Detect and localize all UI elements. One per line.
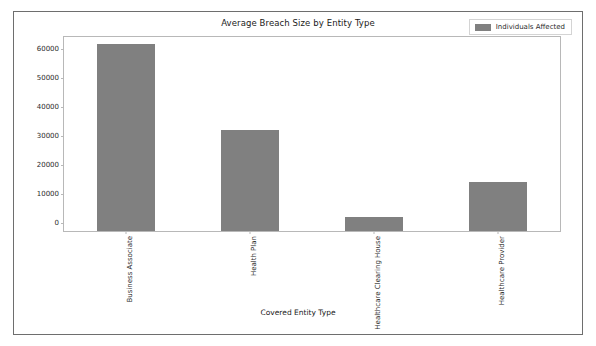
- legend-label-individuals-affected: Individuals Affected: [496, 23, 565, 31]
- legend-swatch-individuals-affected: [475, 24, 491, 31]
- y-axis-tick-label: 20000: [37, 161, 64, 169]
- y-axis-tick-label: 10000: [37, 190, 64, 198]
- plot-area: 0100002000030000400005000060000 Business…: [63, 36, 561, 232]
- x-axis-title: Covered Entity Type: [14, 308, 582, 317]
- chart-screenshot: Average Breach Size by Entity Type Indiv…: [0, 0, 596, 346]
- bar: [469, 182, 527, 231]
- y-axis-tick-label: 50000: [37, 74, 64, 82]
- bar: [221, 130, 279, 231]
- x-axis-tick-mark: [374, 231, 375, 234]
- y-axis-tick-label: 60000: [37, 45, 64, 53]
- y-axis-tick-label: 0: [55, 219, 64, 227]
- figure-frame: Average Breach Size by Entity Type Indiv…: [13, 11, 583, 335]
- y-axis-tick-label: 30000: [37, 132, 64, 140]
- x-axis-tick-label: Healthcare Provider: [498, 236, 506, 305]
- bar: [97, 44, 155, 231]
- x-axis-tick-mark: [126, 231, 127, 234]
- x-axis-tick-mark: [250, 231, 251, 234]
- x-axis-tick-label: Health Plan: [250, 236, 258, 276]
- x-axis-tick-mark: [498, 231, 499, 234]
- bar-series-individuals-affected: [64, 37, 560, 231]
- x-axis-tick-label: Business Associate: [126, 236, 134, 303]
- chart-legend: Individuals Affected: [469, 19, 572, 35]
- y-axis-tick-label: 40000: [37, 103, 64, 111]
- bar: [345, 217, 403, 231]
